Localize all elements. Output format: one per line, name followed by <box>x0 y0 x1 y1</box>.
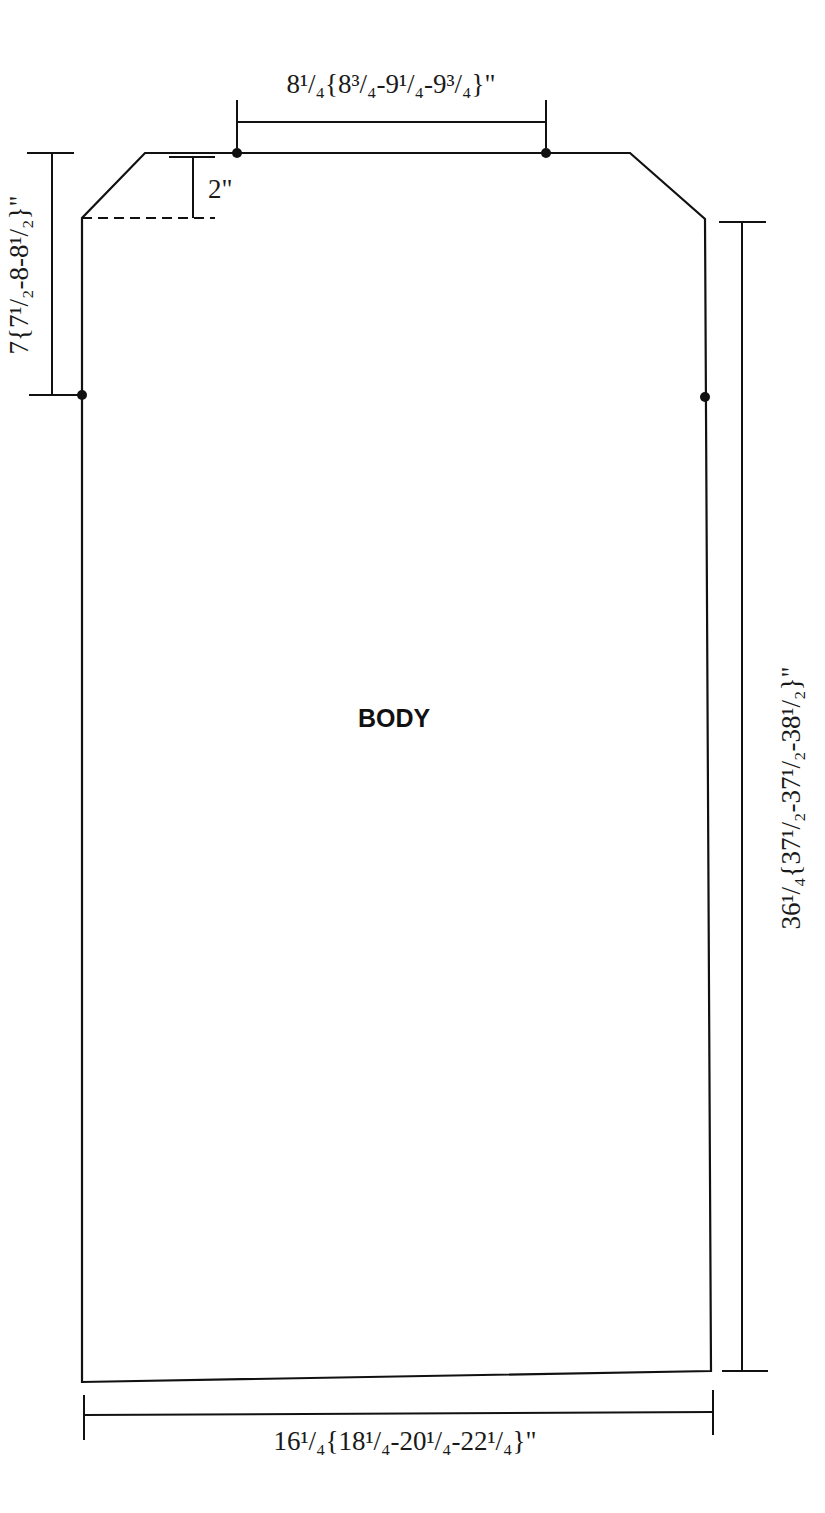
width-label: 16¹/₄{18¹/₄-20¹/₄-22¹/₄}" <box>274 1426 537 1456</box>
length-dimension <box>719 222 768 1371</box>
body-outline <box>82 153 711 1382</box>
neck-width-label: 8¹/₄{8³/₄-9¹/₄-9³/₄}" <box>287 69 496 99</box>
piece-title: BODY <box>358 704 431 732</box>
neck-left-marker <box>232 148 242 158</box>
body-schematic: 8¹/₄{8³/₄-9¹/₄-9³/₄}" 2" 7{7¹/₂-8-8¹/₂}"… <box>0 0 825 1513</box>
neck-right-marker <box>541 148 551 158</box>
neck-width-dimension <box>237 100 546 148</box>
shoulder-slope-label: 2" <box>208 174 233 204</box>
armhole-depth-dimension <box>27 153 80 395</box>
marker-dots <box>77 148 710 402</box>
armhole-depth-label: 7{7¹/₂-8-8¹/₂}" <box>4 196 34 355</box>
armhole-right-marker <box>700 392 710 402</box>
length-label: 36¹/₄{37¹/₂-37¹/₂-38¹/₂}" <box>776 667 806 930</box>
